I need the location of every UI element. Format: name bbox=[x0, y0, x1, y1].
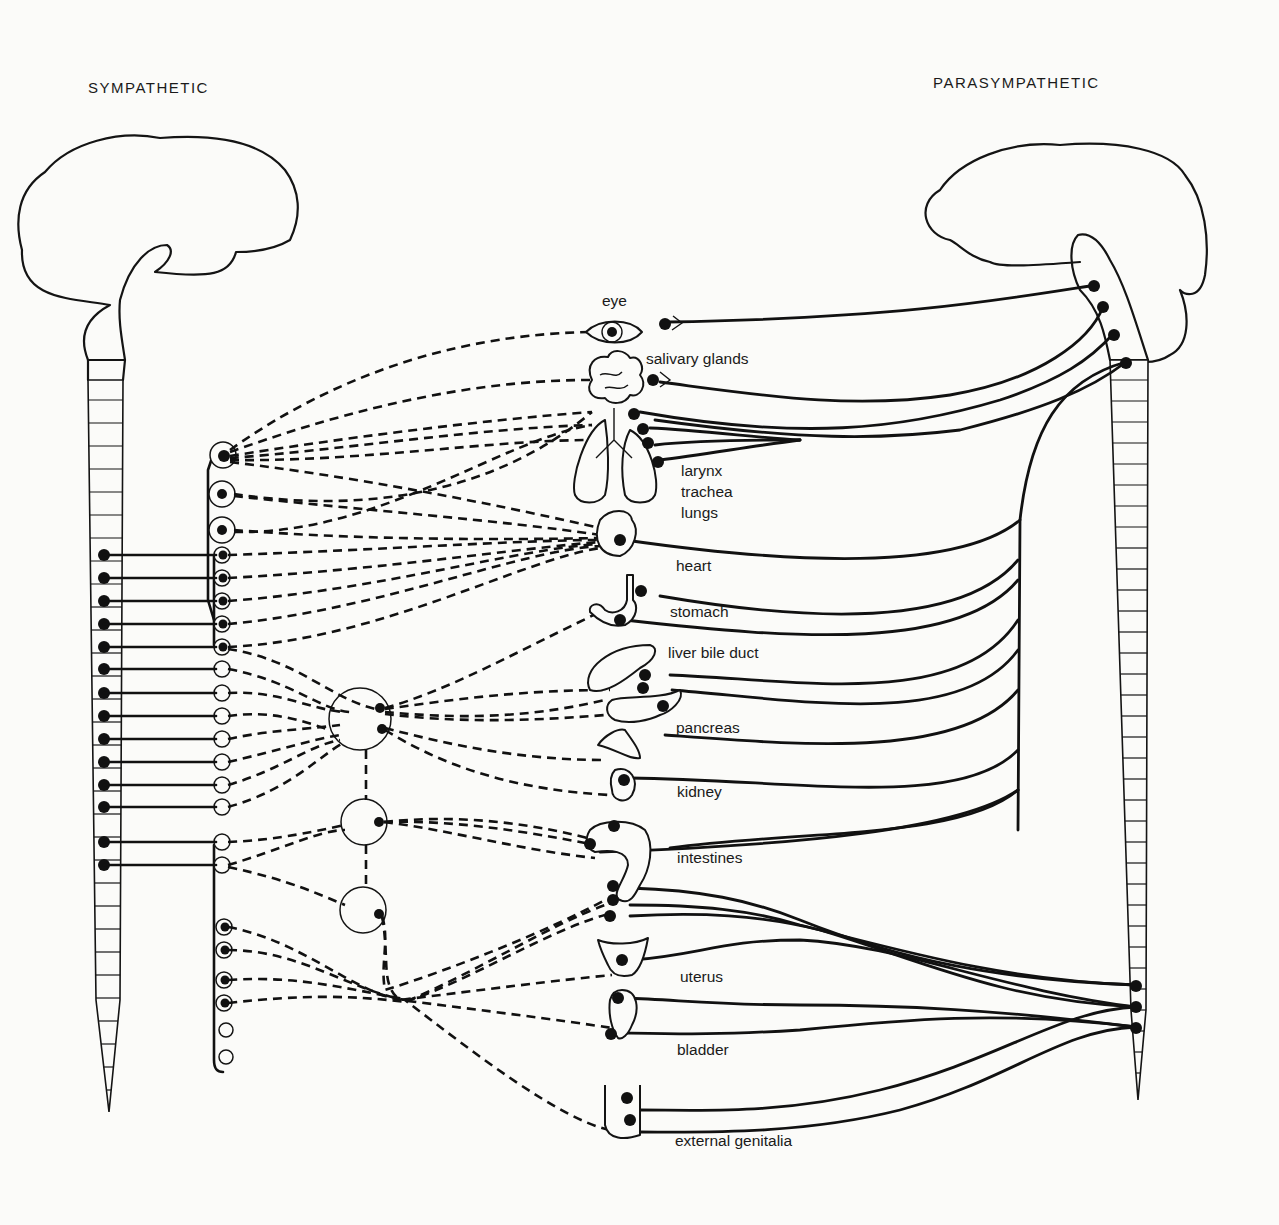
liver-organ bbox=[588, 645, 655, 694]
parasympathetic-title: PARASYMPATHETIC bbox=[933, 74, 1100, 91]
external-genitalia-organ bbox=[605, 1085, 640, 1138]
heart-organ bbox=[597, 511, 636, 556]
lungs-trachea-organ bbox=[574, 408, 664, 503]
adrenal-organ bbox=[598, 730, 640, 759]
label-kidney: kidney bbox=[677, 783, 722, 800]
label-stomach: stomach bbox=[670, 603, 729, 620]
stomach-organ bbox=[590, 575, 647, 626]
label-bladder: bladder bbox=[677, 1041, 729, 1058]
uterus-organ bbox=[598, 938, 648, 976]
sympathetic-postganglionic-fibers bbox=[228, 332, 612, 1130]
label-trachea: trachea bbox=[681, 483, 733, 500]
label-intestines: intestines bbox=[677, 849, 743, 866]
label-eye: eye bbox=[602, 292, 627, 309]
label-lungs: lungs bbox=[681, 504, 718, 521]
label-salivary: salivary glands bbox=[646, 350, 749, 367]
label-liver: liver bile duct bbox=[668, 644, 759, 661]
parasympathetic-fibers bbox=[600, 285, 1136, 1132]
left-brain-icon bbox=[18, 136, 297, 380]
inferior-mesenteric-ganglion bbox=[340, 887, 386, 933]
rectum-organ bbox=[604, 880, 619, 922]
label-larynx: larynx bbox=[681, 462, 723, 479]
parasympathetic-spinal-cord bbox=[1110, 360, 1148, 1100]
label-heart: heart bbox=[676, 557, 712, 574]
celiac-ganglion bbox=[329, 688, 391, 750]
eye-organ bbox=[586, 316, 682, 343]
kidney-organ bbox=[611, 769, 635, 800]
sympathetic-title: SYMPATHETIC bbox=[88, 79, 209, 96]
sympathetic-spinal-cord bbox=[88, 380, 123, 1112]
label-genitalia: external genitalia bbox=[675, 1132, 793, 1149]
superior-mesenteric-ganglion bbox=[341, 799, 387, 845]
label-pancreas: pancreas bbox=[676, 719, 740, 736]
label-uterus: uterus bbox=[680, 968, 723, 985]
right-brain-icon bbox=[926, 144, 1207, 362]
ans-diagram: SYMPATHETIC PARASYMPATHETIC bbox=[0, 0, 1279, 1225]
pancreas-organ bbox=[607, 690, 681, 722]
